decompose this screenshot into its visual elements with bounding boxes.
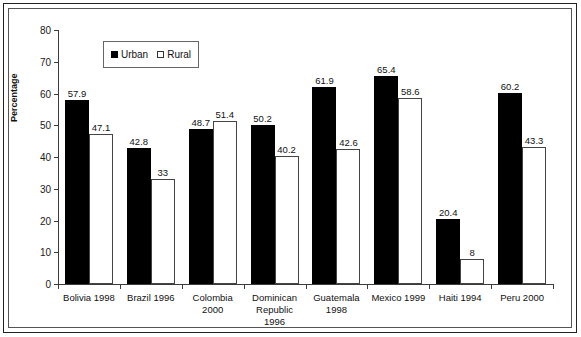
x-axis-tick [182,284,183,289]
bar-value-label: 42.8 [130,136,149,147]
x-axis-tick [58,284,59,289]
x-axis-tick [429,284,430,289]
category-label-line: Republic [244,304,306,316]
bar-group: 57.947.1 [58,30,120,284]
x-axis-category-label: Bolivia 1998 [58,292,120,304]
bar-group: 42.833 [120,30,182,284]
y-axis-tick-label: 50 [40,120,51,131]
category-label-line: Guatemala [306,292,368,304]
bar-value-label: 61.9 [315,75,334,86]
bar-group: 48.751.4 [182,30,244,284]
bar-value-label: 8 [470,247,475,258]
category-label-line: Haiti 1994 [429,292,491,304]
category-label-line: Bolivia 1998 [58,292,120,304]
x-axis-category-label: Mexico 1999 [367,292,429,304]
bar-value-label: 43.3 [525,135,544,146]
bar-value-label: 33 [158,167,169,178]
bar-rural[interactable]: 43.3 [522,147,546,284]
x-axis-tick [553,284,554,289]
x-axis-tick [306,284,307,289]
x-axis-tick [244,284,245,289]
y-axis-tick-label: 20 [40,215,51,226]
bar-group: 65.458.6 [367,30,429,284]
bar-value-label: 65.4 [377,64,396,75]
y-axis-tick-label: 80 [40,25,51,36]
y-axis-tick-label: 10 [40,247,51,258]
bar-group: 20.48 [429,30,491,284]
category-label-line: 1998 [306,304,368,316]
bar-rural[interactable]: 33 [151,179,175,284]
category-label-line: 2000 [182,304,244,316]
x-axis-category-label: DominicanRepublic1996 [244,292,306,328]
bar-urban[interactable]: 61.9 [312,87,336,284]
bar-rural[interactable]: 40.2 [275,156,299,284]
y-axis-tick-label: 0 [45,279,51,290]
category-label-line: Brazil 1996 [120,292,182,304]
chart-figure: Percentage Urban Rural 01020304050607080… [0,0,581,337]
x-axis-category-label: Peru 2000 [491,292,553,304]
x-axis-category-label: Colombia2000 [182,292,244,316]
bar-urban[interactable]: 48.7 [189,129,213,284]
x-axis-category-label: Brazil 1996 [120,292,182,304]
bar-urban[interactable]: 57.9 [65,100,89,284]
y-axis-tick-label: 70 [40,56,51,67]
x-axis-tick [120,284,121,289]
y-axis-tick-label: 40 [40,152,51,163]
bar-urban[interactable]: 60.2 [498,93,522,284]
bar-urban[interactable]: 50.2 [251,125,275,284]
bar-group: 50.240.2 [244,30,306,284]
y-axis-tick-label: 30 [40,183,51,194]
bar-value-label: 20.4 [439,207,458,218]
bar-value-label: 58.6 [401,86,420,97]
bar-rural[interactable]: 58.6 [398,98,422,284]
bar-rural[interactable]: 47.1 [89,134,113,284]
bar-urban[interactable]: 20.4 [436,219,460,284]
bar-urban[interactable]: 42.8 [127,148,151,284]
x-axis-category-label: Guatemala1998 [306,292,368,316]
bar-value-label: 42.6 [339,137,358,148]
bar-group: 61.942.6 [306,30,368,284]
category-label-line: Mexico 1999 [367,292,429,304]
x-axis-tick [367,284,368,289]
bar-rural[interactable]: 8 [460,259,484,284]
category-label-line: Peru 2000 [491,292,553,304]
bar-rural[interactable]: 42.6 [336,149,360,284]
x-axis-tick [491,284,492,289]
bar-group: 60.243.3 [491,30,553,284]
category-label-line: 1996 [244,316,306,328]
bar-rural[interactable]: 51.4 [213,121,237,284]
category-label-line: Dominican [244,292,306,304]
bar-value-label: 48.7 [191,117,210,128]
bar-value-label: 50.2 [253,113,272,124]
plot-area: 01020304050607080 57.947.142.83348.751.4… [58,30,553,284]
bar-value-label: 57.9 [68,88,87,99]
category-label-line: Colombia [182,292,244,304]
bar-value-label: 60.2 [501,81,520,92]
bar-value-label: 47.1 [92,122,111,133]
x-axis-category-label: Haiti 1994 [429,292,491,304]
y-axis-title: Percentage [9,73,19,122]
y-axis-tick-label: 60 [40,88,51,99]
bar-urban[interactable]: 65.4 [374,76,398,284]
bar-value-label: 51.4 [215,109,234,120]
bar-value-label: 40.2 [277,144,296,155]
